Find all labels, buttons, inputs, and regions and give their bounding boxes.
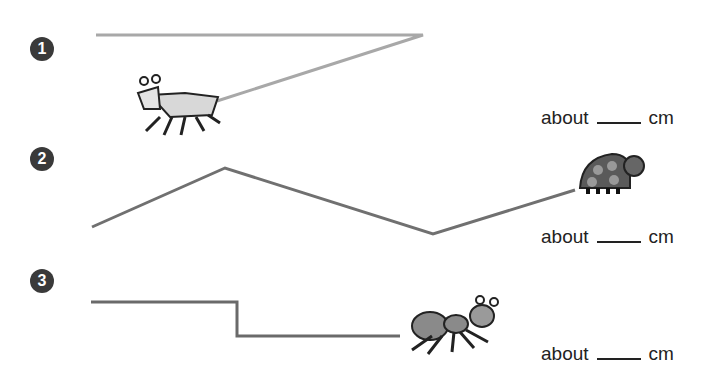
answer-prefix: about (541, 107, 589, 128)
problem-number-1: 1 (30, 37, 54, 61)
problem-number-3: 3 (30, 269, 54, 293)
answer-blank[interactable] (597, 108, 641, 124)
grasshopper-icon (138, 75, 220, 135)
ant-icon (412, 296, 498, 354)
ladybug-icon (580, 154, 644, 194)
answer-3: aboutcm (541, 343, 674, 365)
line-2 (92, 168, 575, 234)
answer-blank[interactable] (597, 344, 641, 360)
answer-2: aboutcm (541, 226, 674, 248)
answer-prefix: about (541, 226, 589, 247)
answer-1: aboutcm (541, 107, 674, 129)
answer-prefix: about (541, 343, 589, 364)
answer-unit: cm (649, 226, 674, 247)
answer-blank[interactable] (597, 227, 641, 243)
line-3 (91, 302, 400, 336)
answer-unit: cm (649, 343, 674, 364)
answer-unit: cm (649, 107, 674, 128)
problem-number-2: 2 (30, 147, 54, 171)
measurement-lines (0, 0, 722, 384)
